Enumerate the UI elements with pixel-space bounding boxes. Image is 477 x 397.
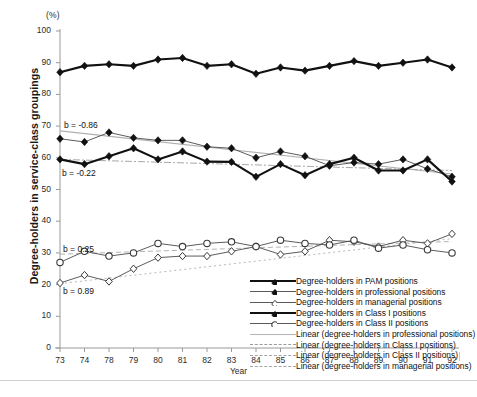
data-marker [302,67,309,74]
data-marker [272,300,277,306]
slope-annotation: b = 0.25 [63,244,94,254]
data-marker [130,62,137,69]
legend-key-icon [250,276,296,286]
data-marker [179,243,185,249]
x-tick-label: 73 [49,355,71,365]
legend-item[interactable]: Degree-holders in professional positions [250,287,475,298]
data-marker [253,154,260,161]
data-marker [302,153,309,160]
x-tick-label: 81 [172,355,194,365]
legend-label: Linear (degree-holders in Class II posit… [296,350,458,361]
data-marker [326,62,333,69]
data-marker [351,154,358,161]
data-marker [57,259,63,265]
legend-key-icon [250,340,296,350]
data-marker [179,252,186,259]
data-marker [253,70,260,77]
data-marker [277,64,284,71]
legend-key-icon [250,361,296,371]
y-tick-label: 90 [27,57,51,67]
data-marker [204,158,211,165]
data-marker [81,62,88,69]
data-marker [326,242,332,248]
chart-legend: Degree-holders in PAM positionsDegree-ho… [250,276,475,371]
data-marker [204,62,211,69]
data-marker [272,311,277,317]
data-marker [106,61,113,68]
data-marker [130,134,137,141]
legend-label: Degree-holders in Class I positions [296,308,426,319]
data-marker [277,251,284,258]
data-marker [155,137,162,144]
data-marker [424,56,431,63]
legend-item[interactable]: Linear (degree-holders in Class I positi… [250,340,475,351]
x-tick-label: 83 [221,355,243,365]
data-marker [81,271,88,278]
data-marker [400,156,407,163]
data-marker [351,237,357,243]
data-marker [204,240,210,246]
data-marker [277,148,284,155]
data-marker [253,243,259,249]
data-marker [179,137,186,144]
data-marker [400,59,407,66]
slope-annotation: b = -0.22 [62,168,96,178]
data-marker [130,265,137,272]
data-marker [106,153,113,160]
data-marker [81,138,88,145]
legend-key-icon [250,319,296,329]
y-tick-label: 70 [27,120,51,130]
data-marker [302,172,309,179]
data-marker [424,247,430,253]
y-tick-label: 50 [27,184,51,194]
data-marker [81,160,88,167]
x-tick-label: 78 [98,355,120,365]
x-tick-label: 74 [74,355,96,365]
page-bottom-rule [0,380,477,381]
legend-item[interactable]: Linear (degree-holders in managerial pos… [250,361,475,372]
legend-label: Linear (degree-holders in Class I positi… [296,340,456,351]
legend-item[interactable]: Linear (degree-holders in Class II posit… [250,350,475,361]
x-tick-label: 80 [147,355,169,365]
data-marker [302,248,309,255]
data-marker [277,160,284,167]
legend-item[interactable]: Linear (degree-holders in professional p… [250,329,475,340]
legend-key-icon [250,287,296,297]
data-marker [272,290,277,296]
data-marker [155,240,161,246]
y-tick-label: 0 [27,342,51,352]
slope-annotation: b = 0.89 [63,286,94,296]
legend-marker-icon [270,288,277,295]
y-axis-unit-label: (%) [46,10,60,20]
legend-marker-icon [270,299,277,306]
legend-item[interactable]: Degree-holders in managerial positions [250,297,475,308]
data-marker [228,61,235,68]
legend-item[interactable]: Degree-holders in Class II positions [250,318,475,329]
legend-label: Degree-holders in professional positions [296,287,445,298]
chart-figure: Degree-holders in service-class grouping… [0,0,477,397]
legend-label: Degree-holders in Class II positions [296,318,428,329]
legend-key-icon [250,297,296,307]
data-marker [57,135,64,142]
y-axis-title: Degree-holders in service-class grouping… [28,46,40,306]
y-tick-label: 10 [27,310,51,320]
legend-item[interactable]: Degree-holders in Class I positions [250,308,475,319]
page-edge-tick [459,352,460,361]
data-marker [130,145,137,152]
legend-marker-icon [270,320,277,327]
legend-key-icon [250,308,296,318]
legend-marker-icon [270,310,277,317]
legend-key-icon [250,329,296,339]
slope-annotation: b = -0.86 [64,120,98,130]
legend-item[interactable]: Degree-holders in PAM positions [250,276,475,287]
y-tick-label: 30 [27,247,51,257]
y-tick-label: 60 [27,152,51,162]
legend-marker-icon [270,278,277,285]
data-marker [130,250,136,256]
legend-key-icon [250,350,296,360]
data-marker [302,240,308,246]
data-marker [449,64,456,71]
data-marker [179,54,186,61]
data-marker [155,56,162,63]
data-marker [179,148,186,155]
